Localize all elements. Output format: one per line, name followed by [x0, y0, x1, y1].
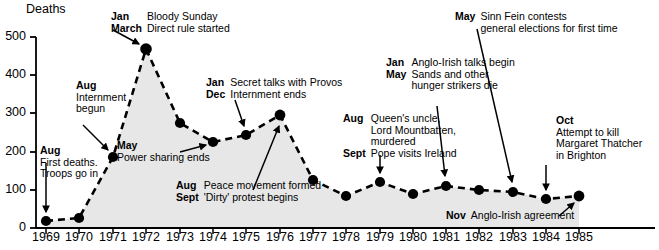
deaths-timeline-chart: Deaths 500 400 300 200 100 0 1969 1970 1…: [0, 0, 659, 250]
annotation-1969: Aug First deaths. Troops go in: [40, 145, 98, 180]
y-tick-500: 500: [0, 30, 26, 43]
annotation-1985: Nov Anglo-Irish agreement: [446, 210, 574, 222]
data-point-1983: [508, 187, 518, 197]
annotation-1979-line1: Queen's uncle,: [371, 113, 457, 125]
annotation-1972-month1: Jan: [111, 11, 147, 23]
annotation-1975-month1: Jan: [206, 77, 230, 89]
annotation-1983-month: May: [455, 11, 480, 23]
data-point-1972: [140, 43, 152, 55]
data-point-1980: [408, 189, 418, 199]
annotation-1981: Jan Anglo-Irish talks begin May Sands an…: [386, 57, 515, 92]
annotation-1975: Jan Secret talks with Provos Dec Internm…: [206, 77, 342, 100]
annotation-1983: May Sinn Fein contests general elections…: [455, 11, 618, 34]
y-tick-100: 100: [0, 183, 26, 196]
annotation-1975-line2: Internment ends: [230, 89, 342, 101]
annotation-1984: Oct Attempt to kill Margaret Thatcher in…: [556, 115, 642, 161]
annotation-1985-month: Nov: [446, 210, 471, 222]
data-point-1975: [241, 130, 251, 140]
annotation-1975-month2: Dec: [206, 89, 230, 101]
y-tick-300: 300: [0, 106, 26, 119]
y-axis-title: Deaths: [26, 2, 66, 16]
annotation-1971: Aug Internment begun: [76, 80, 126, 115]
data-point-1978: [341, 191, 351, 201]
data-point-1973: [175, 118, 185, 128]
data-point-1979: [375, 177, 385, 187]
annotation-1969-month: Aug: [40, 145, 98, 157]
annotation-1972-line1: Bloody Sunday: [147, 11, 230, 23]
annotation-1979-month2: Sept: [343, 148, 371, 160]
data-point-1982: [474, 185, 484, 195]
leader-1983: [477, 29, 512, 182]
annotation-1984-month: Oct: [556, 115, 642, 127]
annotation-1975-line1: Secret talks with Provos: [230, 77, 342, 89]
annotation-1981-month2: May: [386, 69, 411, 81]
annotation-1976-month2: Sept: [176, 192, 204, 204]
annotation-1983-line2: general elections for first time: [480, 23, 617, 35]
data-point-1985: [574, 191, 585, 202]
annotation-1974-month: May: [117, 140, 210, 152]
data-point-1981: [441, 181, 451, 191]
annotation-1984-line3: in Brighton: [556, 150, 642, 162]
x-tick-1985: 1985: [559, 231, 599, 244]
annotation-1969-line2: Troops go in: [40, 168, 98, 180]
annotation-1985-line1: Anglo-Irish agreement: [471, 210, 574, 222]
y-tick-0: 0: [0, 221, 26, 234]
annotation-1981-line1: Anglo-Irish talks begin: [411, 57, 514, 69]
annotation-1972: Jan Bloody Sunday March Direct rule star…: [111, 11, 230, 34]
data-point-1970: [74, 213, 84, 223]
data-point-1976: [275, 110, 286, 121]
annotation-1974-line1: Power sharing ends: [117, 152, 210, 164]
annotation-1972-month2: March: [111, 23, 147, 35]
data-point-1984: [541, 194, 551, 204]
annotation-1979-line4: Pope visits Ireland: [371, 148, 457, 160]
annotation-1981-month1: Jan: [386, 57, 411, 69]
annotation-1971-line2: begun: [76, 103, 126, 115]
annotation-1979-month1: Aug: [343, 113, 371, 125]
annotation-1971-month: Aug: [76, 80, 126, 92]
annotation-1976-line2: 'Dirty' protest begins: [204, 192, 321, 204]
annotation-1976-month1: Aug: [176, 180, 204, 192]
annotation-1983-line1: Sinn Fein contests: [480, 11, 617, 23]
annotation-1974: May Power sharing ends: [117, 140, 210, 163]
annotation-1979: Aug Queen's uncle, Lord Mountbatten, mur…: [343, 113, 457, 159]
leader-1975: [235, 100, 244, 126]
annotation-1972-line2: Direct rule started: [147, 23, 230, 35]
data-point-1969: [41, 216, 51, 226]
y-tick-400: 400: [0, 68, 26, 81]
annotation-1976-line1: Peace movement formed: [204, 180, 321, 192]
annotation-1976: Aug Peace movement formed Sept 'Dirty' p…: [176, 180, 321, 203]
annotation-1981-line3: hunger strikers die: [411, 80, 514, 92]
y-tick-200: 200: [0, 145, 26, 158]
